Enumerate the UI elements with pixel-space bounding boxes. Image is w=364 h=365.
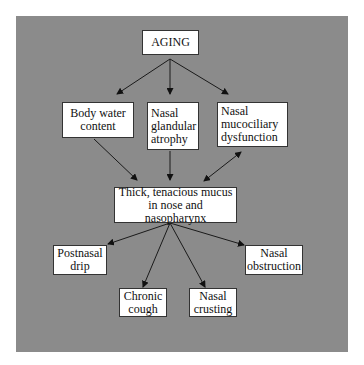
node-body-water-label: Body water content [70,107,126,133]
arrow-aging-to-mucociliary [170,59,228,94]
node-thick-tenacious-mucus: Thick, tenacious mucus in nose and nasop… [114,187,237,223]
node-glandular-label: Nasal glandular atrophy [151,107,196,146]
node-mucus-label: Thick, tenacious mucus in nose and nasop… [118,186,233,225]
arrow-mucus-to-cough [143,223,170,287]
arrow-mucus-to-crusting [170,223,205,287]
arrow-mucociliary-mucus-bidirectional [204,152,241,181]
node-aging-label: AGING [151,36,190,49]
node-postnasal-drip: Postnasal drip [53,245,107,275]
arrow-mucus-to-postnasal [108,223,170,244]
node-body-water-content: Body water content [62,102,134,138]
node-chronic-cough: Chronic cough [119,288,167,317]
node-cough-label: Chronic cough [124,290,163,316]
node-aging: AGING [142,30,199,55]
node-nasal-glandular-atrophy: Nasal glandular atrophy [147,102,199,150]
arrow-mucus-to-obstruction [170,223,244,245]
arrow-body-water-to-mucus [94,139,137,180]
node-postnasal-label: Postnasal drip [57,247,102,273]
node-nasal-crusting: Nasal crusting [189,288,237,317]
node-nasal-obstruction: Nasal obstruction [245,245,303,275]
node-obstruction-label: Nasal obstruction [247,247,301,273]
node-crusting-label: Nasal crusting [194,290,233,316]
arrow-aging-to-body-water [117,59,170,94]
node-mucociliary-label: Nasal mucociliary dysfunction [221,105,278,144]
node-nasal-mucociliary-dysfunction: Nasal mucociliary dysfunction [217,102,288,147]
